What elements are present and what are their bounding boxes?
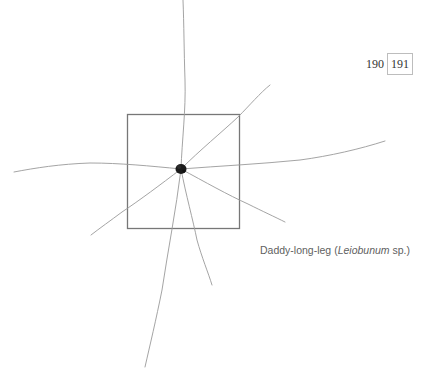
- specimen-body: [176, 164, 187, 174]
- figure-caption: Daddy-long-leg (Leiobunum sp.): [260, 244, 410, 256]
- leg-lower-right: [181, 169, 285, 222]
- specimen-legs: [14, 0, 385, 367]
- book-page: 190 191 Daddy-long-leg (Leiobunum sp.): [0, 0, 426, 390]
- leg-lower-left: [91, 169, 181, 235]
- leg-top: [181, 0, 185, 169]
- leg-upper-right: [181, 85, 270, 169]
- leg-down-right: [181, 169, 212, 285]
- leg-left: [14, 163, 181, 172]
- page-number-group: 190 191: [366, 53, 413, 75]
- page-number-current: 191: [387, 53, 413, 75]
- leg-bottom: [145, 169, 181, 367]
- caption-scientific-name: Leiobunum: [338, 244, 390, 256]
- leg-right: [181, 141, 385, 169]
- caption-common-name: Daddy-long-leg: [260, 244, 331, 256]
- page-number-previous: 190: [366, 57, 387, 72]
- specimen-illustration: [0, 0, 426, 390]
- caption-suffix: sp.): [390, 244, 410, 256]
